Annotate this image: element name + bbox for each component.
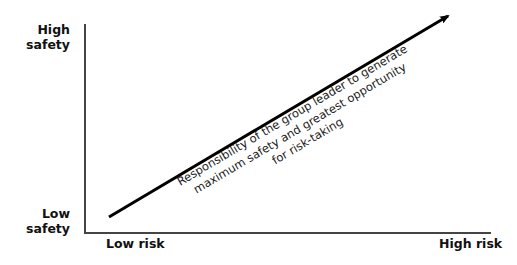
y-axis-label-safety: safety xyxy=(0,37,70,52)
x-axis-label-low-risk: Low risk xyxy=(106,236,165,251)
y-axis-label-safety-bottom: safety xyxy=(0,221,70,236)
y-axis-label-low: Low xyxy=(0,206,70,221)
x-axis-label-high-risk: High risk xyxy=(439,236,502,251)
y-axis-label-low-safety: Low safety xyxy=(0,206,70,236)
y-axis-label-high-safety: High safety xyxy=(0,22,70,52)
y-axis-label-high: High xyxy=(0,22,70,37)
